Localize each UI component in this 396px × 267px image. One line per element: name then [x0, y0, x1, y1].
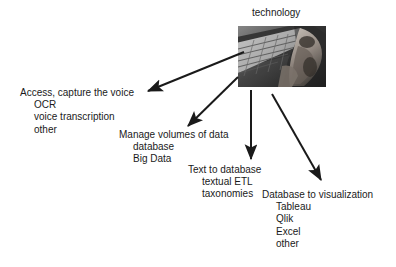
branch-visualization-item-0: Tableau: [262, 201, 373, 213]
branch-text-item-1: taxonomies: [188, 188, 261, 200]
branch-access: Access, capture the voice OCR voice tran…: [20, 87, 134, 136]
branch-text: Text to database textual ETL taxonomies: [188, 164, 261, 201]
diagram-canvas: technology: [0, 0, 396, 267]
branch-visualization-heading: Database to visualization: [262, 189, 373, 201]
branch-visualization-item-1: Qlik: [262, 213, 373, 225]
branch-text-item-0: textual ETL: [188, 176, 261, 188]
branch-access-item-2: other: [20, 124, 134, 136]
branch-access-item-1: voice transcription: [20, 111, 134, 123]
keyboard-photo: [238, 26, 326, 87]
branch-manage-item-0: database: [119, 141, 229, 153]
arrow-to-access: [148, 52, 244, 91]
arrow-to-manage: [188, 77, 238, 126]
branch-visualization-item-2: Excel: [262, 226, 373, 238]
arrow-to-visualization: [272, 94, 321, 180]
branch-access-item-0: OCR: [20, 99, 134, 111]
branch-manage: Manage volumes of data database Big Data: [119, 129, 229, 166]
root-node-label: technology: [252, 7, 300, 19]
branch-manage-heading: Manage volumes of data: [119, 129, 229, 141]
branch-visualization: Database to visualization Tableau Qlik E…: [262, 189, 373, 250]
branch-visualization-item-3: other: [262, 238, 373, 250]
branch-text-heading: Text to database: [188, 164, 261, 176]
branch-access-heading: Access, capture the voice: [20, 87, 134, 99]
